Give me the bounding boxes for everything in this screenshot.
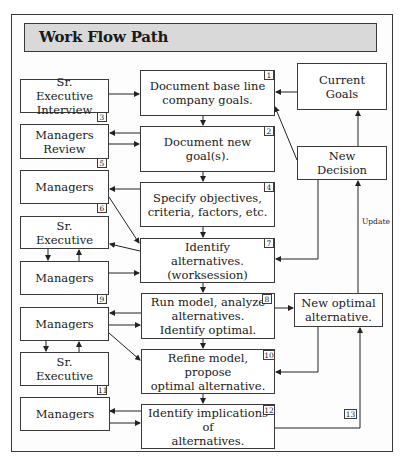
connector-arrows xyxy=(0,0,408,467)
